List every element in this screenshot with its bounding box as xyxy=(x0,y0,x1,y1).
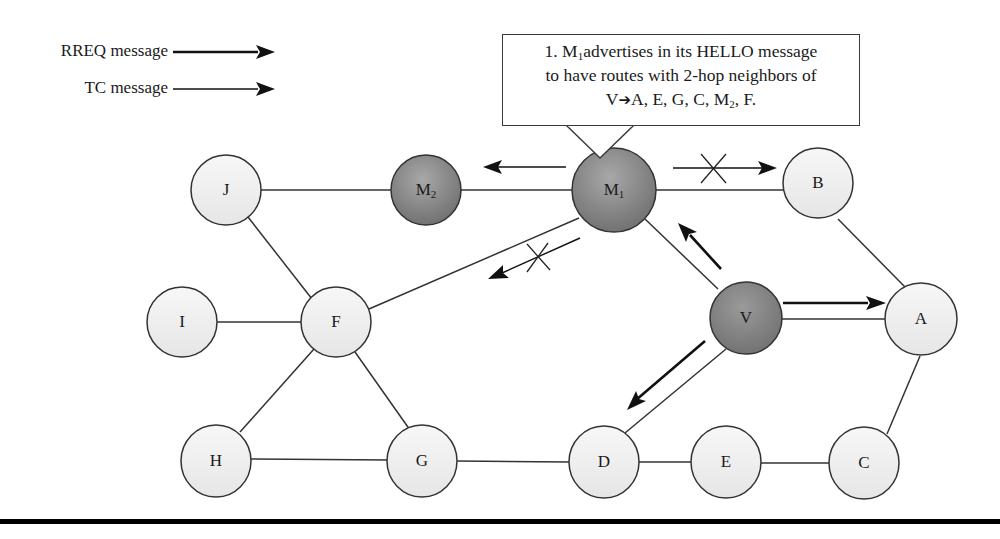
node-label-G: G xyxy=(387,451,457,471)
node-label-M2: M2 xyxy=(391,180,461,200)
legend-tc-arrow xyxy=(173,82,275,96)
node-label-H: H xyxy=(181,451,251,471)
tc-arrow-M1-to-B-blocked xyxy=(673,154,777,183)
callout-line-1: 1. M1advertises in its HELLO message xyxy=(503,39,859,63)
node-label-F: F xyxy=(301,312,371,332)
callout-line-3: V➔A, E, G, C, M2, F. xyxy=(503,87,859,112)
edge-F-M1 xyxy=(369,218,579,309)
node-label-A: A xyxy=(886,309,956,329)
node-label-B: B xyxy=(783,173,853,193)
callout-box: 1. M1advertises in its HELLO message to … xyxy=(502,34,860,126)
rreq-arrow-V-to-A xyxy=(783,296,886,310)
node-label-M1: M1 xyxy=(579,180,649,200)
tc-arrow-M1-to-F-blocked xyxy=(488,238,580,279)
edge-F-H xyxy=(240,349,314,432)
edge-F-G xyxy=(355,352,410,430)
node-label-E: E xyxy=(691,452,761,472)
edge-V-D xyxy=(625,349,726,433)
legend-label-rreq: RREQ message xyxy=(8,41,168,61)
node-label-J: J xyxy=(191,180,261,200)
edge-J-F xyxy=(248,217,312,299)
node-label-D: D xyxy=(569,452,639,472)
rreq-arrow-V-to-M1 xyxy=(678,223,721,269)
legend-rreq-arrow xyxy=(173,45,275,59)
node-label-I: I xyxy=(147,312,217,332)
bottom-rule xyxy=(0,519,1000,524)
tc-arrow-M1-to-M2 xyxy=(483,160,566,174)
edge-H-G xyxy=(251,459,389,460)
edge-B-A xyxy=(838,219,905,287)
legend-label-tc: TC message xyxy=(8,78,168,98)
nodes xyxy=(147,148,957,499)
arrow-icon: ➔ xyxy=(618,91,631,109)
node-label-C: C xyxy=(829,453,899,473)
edge-G-D xyxy=(457,461,569,462)
node-label-V: V xyxy=(711,308,781,328)
callout-line-2: to have routes with 2-hop neighbors of xyxy=(503,63,859,87)
edge-A-C xyxy=(887,356,920,434)
